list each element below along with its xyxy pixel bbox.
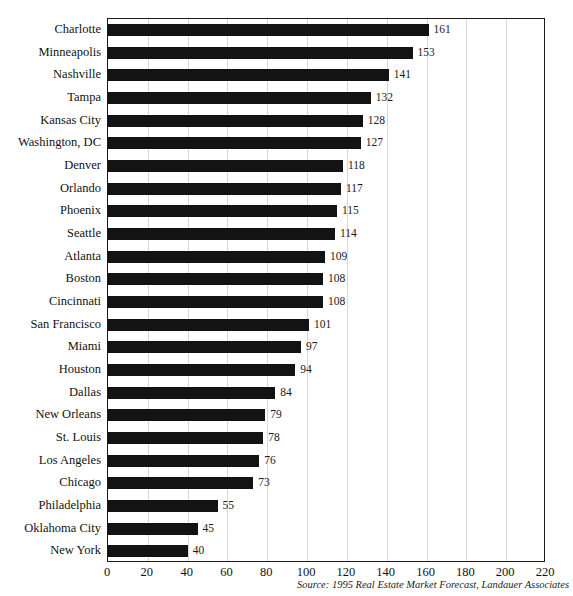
x-tick-label: 60 xyxy=(220,563,233,581)
category-label: Boston xyxy=(0,267,101,290)
category-label: St. Louis xyxy=(0,426,101,449)
category-label: Dallas xyxy=(0,381,101,404)
bar xyxy=(108,183,341,195)
bar-row: 79 xyxy=(108,404,544,427)
bar-row: 108 xyxy=(108,268,544,291)
bar-value-label: 127 xyxy=(366,134,383,151)
category-label: Seattle xyxy=(0,222,101,245)
category-label: Cincinnati xyxy=(0,290,101,313)
category-label: Miami xyxy=(0,335,101,358)
bar xyxy=(108,69,389,81)
bar-value-label: 78 xyxy=(268,429,280,446)
category-label: Nashville xyxy=(0,63,101,86)
x-tick-label: 80 xyxy=(260,563,273,581)
bar-value-label: 101 xyxy=(314,316,331,333)
bar-row: 84 xyxy=(108,382,544,405)
bar-value-label: 76 xyxy=(264,452,276,469)
category-label: New Orleans xyxy=(0,403,101,426)
bar xyxy=(108,273,323,285)
category-label: Washington, DC xyxy=(0,131,101,154)
bar-row: 76 xyxy=(108,450,544,473)
bar-row: 45 xyxy=(108,518,544,541)
bar-row: 109 xyxy=(108,246,544,269)
bar-value-label: 45 xyxy=(203,520,215,537)
category-axis-labels: CharlotteMinneapolisNashvilleTampaKansas… xyxy=(0,18,101,562)
x-tick-label: 0 xyxy=(104,563,110,581)
bar xyxy=(108,341,301,353)
category-label: Philadelphia xyxy=(0,494,101,517)
plot-area: 1611531411321281271181171151141091081081… xyxy=(107,18,545,562)
bar-value-label: 108 xyxy=(328,270,345,287)
bar-value-label: 118 xyxy=(348,157,365,174)
bar xyxy=(108,500,218,512)
bar-value-label: 97 xyxy=(306,338,318,355)
category-label: San Francisco xyxy=(0,313,101,336)
bar-row: 73 xyxy=(108,472,544,495)
bar-value-label: 55 xyxy=(223,497,235,514)
bar xyxy=(108,409,265,421)
bar-value-label: 128 xyxy=(368,112,385,129)
bar xyxy=(108,477,253,489)
cropped-title-text xyxy=(8,0,408,3)
x-tick-label: 40 xyxy=(180,563,193,581)
bar-value-label: 84 xyxy=(280,384,292,401)
category-label: Chicago xyxy=(0,471,101,494)
bar-row: 94 xyxy=(108,359,544,382)
bar-row: 40 xyxy=(108,540,544,563)
bar-value-label: 132 xyxy=(376,89,393,106)
bar-value-label: 109 xyxy=(330,248,347,265)
bar-row: 115 xyxy=(108,200,544,223)
bar xyxy=(108,432,263,444)
bar-row: 117 xyxy=(108,178,544,201)
bar xyxy=(108,205,337,217)
bar xyxy=(108,92,371,104)
bar xyxy=(108,137,361,149)
category-label: Denver xyxy=(0,154,101,177)
bar xyxy=(108,387,275,399)
bar-row: 97 xyxy=(108,336,544,359)
bar-row: 114 xyxy=(108,223,544,246)
category-label: Minneapolis xyxy=(0,41,101,64)
category-label: Los Angeles xyxy=(0,449,101,472)
bar xyxy=(108,364,295,376)
bar xyxy=(108,160,343,172)
category-label: Charlotte xyxy=(0,18,101,41)
bar xyxy=(108,455,259,467)
bar-row: 132 xyxy=(108,87,544,110)
bar-value-label: 94 xyxy=(300,361,312,378)
bar-value-label: 79 xyxy=(270,406,282,423)
bar xyxy=(108,545,188,557)
category-label: New York xyxy=(0,539,101,562)
bar-value-label: 108 xyxy=(328,293,345,310)
bar-row: 78 xyxy=(108,427,544,450)
category-label: Orlando xyxy=(0,177,101,200)
bar-value-label: 73 xyxy=(258,474,270,491)
category-label: Tampa xyxy=(0,86,101,109)
source-note: Source: 1995 Real Estate Market Forecast… xyxy=(297,579,569,590)
bar-value-label: 141 xyxy=(394,66,411,83)
category-label: Atlanta xyxy=(0,245,101,268)
category-label: Houston xyxy=(0,358,101,381)
bar-value-label: 153 xyxy=(418,44,435,61)
bar xyxy=(108,24,429,36)
bar xyxy=(108,115,363,127)
bar xyxy=(108,251,325,263)
bar-value-label: 117 xyxy=(346,180,363,197)
bar-value-label: 40 xyxy=(193,542,205,559)
bar-row: 161 xyxy=(108,19,544,42)
category-label: Oklahoma City xyxy=(0,517,101,540)
bar-value-label: 161 xyxy=(434,21,451,38)
bar-value-label: 114 xyxy=(340,225,357,242)
bar xyxy=(108,523,198,535)
bar-row: 101 xyxy=(108,314,544,337)
bar-row: 108 xyxy=(108,291,544,314)
bar xyxy=(108,47,413,59)
bar-series: 1611531411321281271181171151141091081081… xyxy=(108,19,544,561)
bar xyxy=(108,228,335,240)
bar-chart: CharlotteMinneapolisNashvilleTampaKansas… xyxy=(0,0,573,596)
category-label: Phoenix xyxy=(0,199,101,222)
bar xyxy=(108,319,309,331)
category-label: Kansas City xyxy=(0,109,101,132)
bar-value-label: 115 xyxy=(342,202,359,219)
bar-row: 118 xyxy=(108,155,544,178)
